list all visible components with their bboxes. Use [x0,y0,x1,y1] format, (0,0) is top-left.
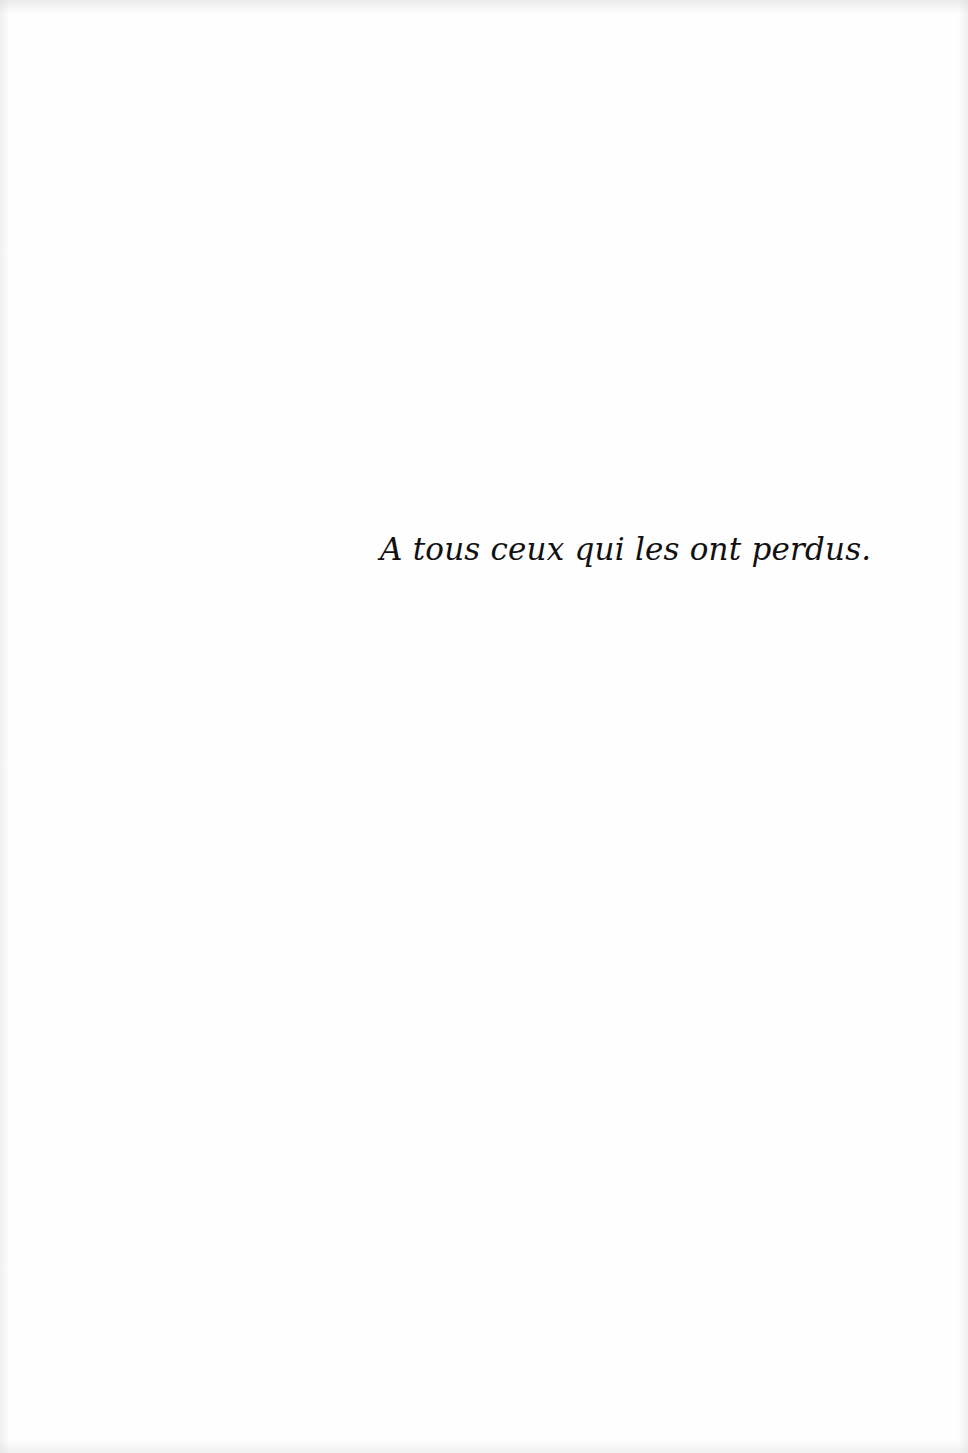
dedication-text: A tous ceux qui les ont perdus. [380,527,871,571]
scan-edge-top [0,0,968,14]
scan-edge-bottom [0,1439,968,1453]
book-page: A tous ceux qui les ont perdus. [0,0,968,1453]
scan-edge-right [958,0,968,1453]
scan-edge-left [0,0,10,1453]
